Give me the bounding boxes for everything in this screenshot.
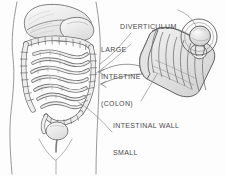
- label-small-intestine-line-2: INTESTINE: [113, 175, 153, 176]
- illustration-canvas: DIVERTICULUM LARGE INTESTINE (COLON) INT…: [0, 0, 225, 176]
- label-intestinal-wall-line-1: INTESTINAL WALL: [113, 121, 179, 130]
- label-large-intestine-line-1: LARGE: [101, 45, 141, 54]
- ascending-colon: [20, 44, 34, 110]
- transverse-colon: [26, 37, 91, 50]
- label-large-intestine-line-2: INTESTINE: [101, 72, 141, 81]
- groin-lines: [39, 139, 72, 174]
- label-small-intestine-line-1: SMALL: [113, 148, 153, 157]
- bladder: [46, 122, 68, 152]
- label-small-intestine: SMALL INTESTINE: [113, 130, 153, 176]
